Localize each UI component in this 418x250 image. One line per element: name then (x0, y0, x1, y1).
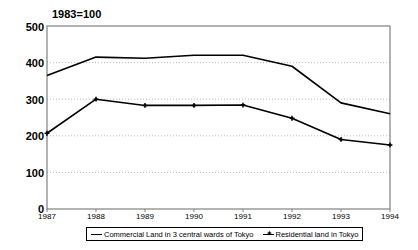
data-point-marker-center (389, 144, 391, 146)
legend-item-commercial: Commercial Land in 3 central wards of To… (91, 230, 254, 239)
chart-legend: Commercial Land in 3 central wards of To… (86, 227, 363, 241)
series-line-residential (47, 99, 390, 145)
legend-label: Commercial Land in 3 central wards of To… (104, 230, 254, 239)
legend-item-residential: ✦ Residential land in Tokyo (263, 230, 359, 239)
data-point-marker-center (95, 98, 97, 100)
legend-label: Residential land in Tokyo (276, 230, 359, 239)
data-point-marker-center (340, 138, 342, 140)
data-series-layer (45, 55, 393, 147)
data-point-marker-center (242, 104, 244, 106)
legend-plus-marker-swatch-icon: ✦ (263, 230, 274, 239)
plot-frame (47, 26, 390, 212)
plot-area (0, 0, 418, 250)
data-point-marker-center (193, 104, 195, 106)
axis-frame (47, 26, 390, 209)
data-point-marker-center (46, 132, 48, 134)
gridlines (47, 63, 390, 173)
data-point-marker-center (144, 104, 146, 106)
data-point-marker-center (291, 117, 293, 119)
chart-container: 1983=100 500 400 300 200 100 0 1987 1988… (0, 0, 418, 250)
legend-line-swatch-icon (91, 230, 102, 239)
